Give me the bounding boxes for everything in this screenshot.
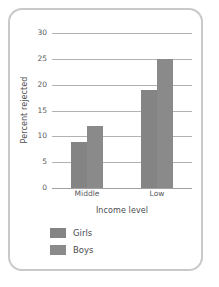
y-tick-label: 30	[37, 29, 47, 37]
y-tick-label: 10	[37, 133, 47, 141]
y-tick-label: 20	[37, 81, 47, 89]
x-tick-label: Low	[150, 190, 165, 198]
legend-swatch-icon	[50, 228, 66, 238]
bar-boys-low	[157, 59, 173, 188]
legend-item: Boys	[50, 243, 94, 257]
bar-girls-low	[141, 90, 157, 188]
gridline	[52, 33, 192, 34]
legend-label: Boys	[73, 246, 94, 255]
y-axis-title: Percent rejected	[20, 77, 29, 144]
y-tick-label: 15	[37, 107, 47, 115]
legend-label: Girls	[73, 229, 92, 238]
chart-legend: GirlsBoys	[50, 226, 94, 260]
bar-boys-middle	[87, 126, 103, 188]
legend-item: Girls	[50, 226, 94, 240]
x-tick-label: Middle	[75, 190, 100, 198]
bar-girls-middle	[71, 142, 87, 189]
figure-card: Percent rejected 051015202530MiddleLow I…	[8, 8, 203, 271]
x-axis-title: Income level	[52, 206, 192, 215]
y-tick-label: 25	[37, 55, 47, 63]
y-tick-label: 5	[42, 158, 47, 166]
gridline	[52, 188, 192, 189]
legend-swatch-icon	[50, 245, 66, 255]
plot-area: 051015202530MiddleLow	[52, 33, 192, 188]
y-tick-label: 0	[42, 184, 47, 192]
